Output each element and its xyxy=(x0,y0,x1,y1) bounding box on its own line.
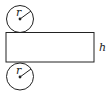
cylinder-net-diagram: r h r xyxy=(0,0,107,92)
top-circle: r xyxy=(7,6,34,33)
top-radius-line xyxy=(20,11,31,19)
bottom-circle: r xyxy=(7,63,34,90)
top-radius-label: r xyxy=(16,6,22,19)
bottom-radius-label: r xyxy=(16,64,22,77)
bottom-radius-line xyxy=(20,69,31,77)
lateral-rectangle xyxy=(6,33,94,63)
height-label: h xyxy=(99,41,106,54)
